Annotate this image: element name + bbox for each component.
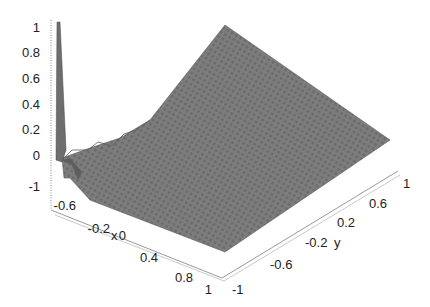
svg-text:-0.2: -0.2 bbox=[305, 235, 327, 250]
svg-text:-0.6: -0.6 bbox=[270, 257, 292, 272]
x-axis-label: x bbox=[111, 228, 118, 243]
svg-text:-1: -1 bbox=[28, 179, 40, 194]
svg-text:0: 0 bbox=[119, 228, 126, 243]
svg-text:0.6: 0.6 bbox=[22, 71, 40, 86]
svg-text:-0.6: -0.6 bbox=[54, 198, 76, 213]
svg-text:1: 1 bbox=[403, 176, 410, 191]
svg-text:1: 1 bbox=[33, 20, 40, 35]
z-tick-labels: 1 0.8 0.6 0.4 0.2 0 -1 bbox=[22, 20, 40, 194]
y-axis-label: y bbox=[334, 235, 341, 250]
svg-text:0.8: 0.8 bbox=[175, 270, 193, 285]
svg-text:0.2: 0.2 bbox=[22, 122, 40, 137]
svg-text:0.2: 0.2 bbox=[337, 215, 355, 230]
svg-text:-0.2: -0.2 bbox=[88, 221, 110, 236]
svg-text:0.4: 0.4 bbox=[22, 97, 40, 112]
svg-text:1: 1 bbox=[205, 282, 212, 297]
svg-text:0.8: 0.8 bbox=[22, 45, 40, 60]
svg-text:-1: -1 bbox=[232, 282, 244, 297]
surface-plot: 1 0.8 0.6 0.4 0.2 0 -1 -0.6 -0.2 0 0.4 0… bbox=[0, 0, 430, 307]
svg-text:0: 0 bbox=[33, 148, 40, 163]
spike-peak bbox=[56, 22, 66, 162]
svg-text:0.6: 0.6 bbox=[369, 196, 387, 211]
svg-text:0.4: 0.4 bbox=[140, 250, 158, 265]
